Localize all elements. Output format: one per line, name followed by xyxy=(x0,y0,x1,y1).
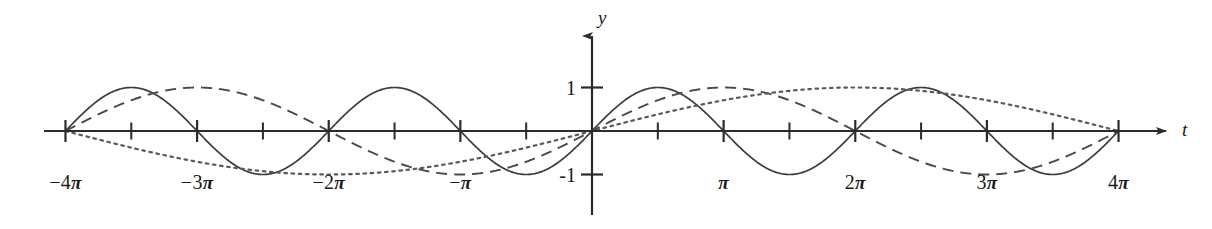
x-axis-label: t xyxy=(1182,120,1187,139)
x-tick-label-number: 3 xyxy=(976,171,986,193)
x-tick-label-number: − xyxy=(449,171,461,193)
x-tick-label: −4π xyxy=(49,172,82,192)
x-tick-label-pi: π xyxy=(203,172,214,193)
x-tick-label-pi: π xyxy=(461,172,472,193)
plot-canvas xyxy=(0,0,1212,229)
x-tick-label-pi: π xyxy=(71,172,82,193)
x-tick-label: π xyxy=(718,172,729,192)
x-tick-label: −3π xyxy=(181,172,214,192)
x-tick-label: 4π xyxy=(1108,172,1129,192)
y-tick-label: 1 xyxy=(566,78,576,98)
y-tick-label: -1 xyxy=(559,165,576,185)
x-tick-label-pi: π xyxy=(718,172,729,193)
x-tick-label: −2π xyxy=(312,172,345,192)
x-tick-label-number: 4 xyxy=(1108,171,1118,193)
x-tick-label: −π xyxy=(449,172,471,192)
x-tick-label-number: −2 xyxy=(312,171,334,193)
x-tick-label: 2π xyxy=(845,172,866,192)
x-tick-label-pi: π xyxy=(334,172,345,193)
x-tick-label-number: −4 xyxy=(49,171,71,193)
sine-waves-figure: −4π−3π−2π−ππ2π3π4π 1-1 t y xyxy=(0,0,1212,229)
x-tick-label-number: 2 xyxy=(845,171,855,193)
y-axis-label: y xyxy=(598,8,606,27)
x-tick-label: 3π xyxy=(976,172,997,192)
x-tick-label-pi: π xyxy=(987,172,998,193)
x-tick-label-number: −3 xyxy=(181,171,203,193)
x-tick-label-pi: π xyxy=(855,172,866,193)
x-tick-label-pi: π xyxy=(1118,172,1129,193)
